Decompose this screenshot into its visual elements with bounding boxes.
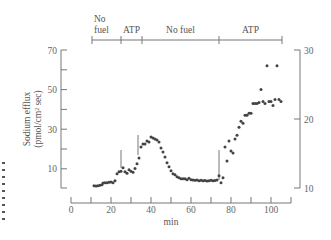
x-axis-tick-label: 60 [186,205,196,215]
data-point [144,143,147,146]
data-point [136,162,139,165]
data-points [93,64,283,187]
data-point [280,100,283,103]
data-point [114,179,117,182]
condition-label: ATP [123,25,140,35]
left-axis-tick-label: 50 [48,85,58,95]
data-point [122,166,125,169]
data-point [218,174,221,177]
data-point [258,101,261,104]
data-point [120,170,123,173]
data-point [138,156,141,159]
data-point [162,150,165,153]
data-point [234,138,237,141]
x-axis-label: min [164,217,179,227]
data-point [232,151,235,154]
data-point [148,141,151,144]
data-point [220,181,223,184]
x-axis-tick-label: 80 [226,205,236,215]
condition-bar: NofuelATPNo fuelATP [92,14,282,44]
x-axis: 020406080100 [69,197,291,215]
right-y-axis: 102030 [294,46,314,194]
chart: NofuelATPNo fuelATP 10305070 102030 0204… [0,0,331,240]
data-point [160,147,163,150]
condition-label: No fuel [166,25,195,35]
event-markers [121,135,219,180]
condition-label: ATP [242,25,259,35]
data-point [238,126,241,129]
y-axis-label-line1: Sodium efflux [22,92,32,147]
data-point [272,104,275,107]
data-point [242,122,245,125]
data-point [216,179,219,182]
right-axis-tick-label: 20 [304,115,314,125]
data-point [226,159,229,162]
data-point [250,112,253,115]
data-point [168,165,171,168]
right-axis-tick-label: 30 [304,46,314,56]
data-point [158,141,161,144]
scan-artifact-marks [2,162,5,222]
left-axis-tick-label: 30 [48,125,58,135]
data-point [132,171,135,174]
data-point [260,88,263,91]
data-point [228,140,231,143]
data-point [166,161,169,164]
data-point [222,176,225,179]
data-point [276,64,279,67]
data-point [126,172,129,175]
data-point [264,102,267,105]
condition-label: fuel [94,25,109,35]
data-point [270,100,273,103]
right-axis-tick-label: 10 [304,184,314,194]
data-point [164,155,167,158]
left-axis-tick-label: 10 [48,164,58,174]
left-y-axis: 10305070 [48,46,68,189]
data-point [134,167,137,170]
left-axis-tick-label: 70 [48,46,58,56]
data-point [266,64,269,67]
data-point [236,134,239,137]
x-axis-tick-label: 40 [146,205,156,215]
condition-label: No [94,14,106,24]
data-point [274,98,277,101]
data-point [170,169,173,172]
x-axis-tick-label: 100 [264,205,279,215]
data-point [224,146,227,149]
data-point [140,146,143,149]
x-axis-tick-label: 20 [106,205,116,215]
x-axis-tick-label: 0 [69,205,74,215]
y-axis-label-line2: (pmol/cm² sec) [33,90,44,147]
